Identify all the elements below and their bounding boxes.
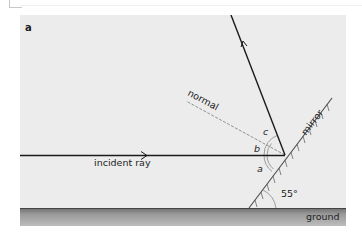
angle-b-label: b [254,143,260,154]
incident-ray-label: incident ray [94,157,151,168]
mirror-angle-label: 55° [281,188,298,199]
angle-a-label: a [257,163,263,174]
diagram-panel [20,15,346,209]
reflection-diagram: a incident ray normal mirror ground a b … [0,0,362,234]
ground-label: ground [306,211,340,222]
ground [20,208,346,226]
panel-label: a [25,22,32,33]
angle-c-label: c [263,126,269,137]
